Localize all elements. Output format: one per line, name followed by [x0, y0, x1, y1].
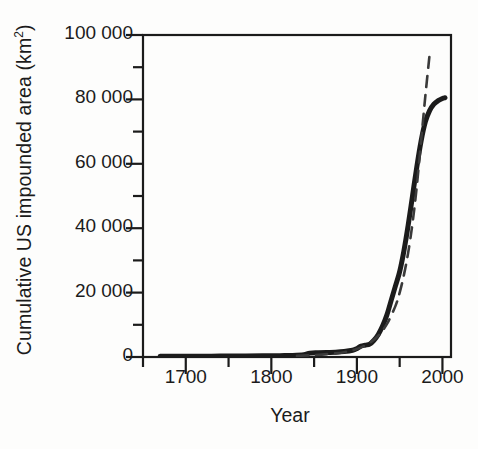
data-line-observed: [160, 98, 445, 357]
figure-container: Cumulative US impounded area (km2) 020 0…: [0, 0, 478, 449]
y-tick-label: 40 000: [13, 215, 133, 237]
y-tick-label: 100 000: [13, 22, 133, 44]
x-tick-label: 1700: [141, 366, 231, 388]
x-tick-label: 1900: [312, 366, 402, 388]
x-axis-label: Year: [0, 404, 478, 427]
x-axis-label-text: Year: [270, 404, 309, 427]
y-tick-label-group: 020 00040 00060 00080 000100 000: [0, 0, 133, 449]
y-tick-label: 20 000: [13, 280, 133, 302]
x-tick-label: 1800: [226, 366, 316, 388]
y-tick-label: 60 000: [13, 151, 133, 173]
x-tick-label: 2000: [397, 366, 478, 388]
axes-group: [126, 35, 451, 374]
y-tick-label: 0: [13, 344, 133, 366]
data-series-group: [160, 54, 445, 356]
y-tick-label: 80 000: [13, 86, 133, 108]
plot-frame: [143, 35, 451, 357]
